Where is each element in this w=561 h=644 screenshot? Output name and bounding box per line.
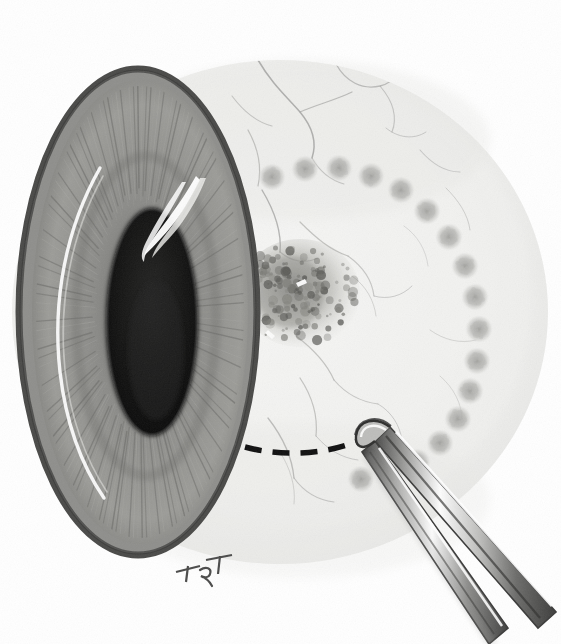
eye-illustration-svg: TRT bbox=[0, 0, 561, 644]
illustration-canvas: Transscleral resection of ciliary body /… bbox=[0, 0, 561, 644]
paper-grain-overlay bbox=[0, 0, 561, 644]
